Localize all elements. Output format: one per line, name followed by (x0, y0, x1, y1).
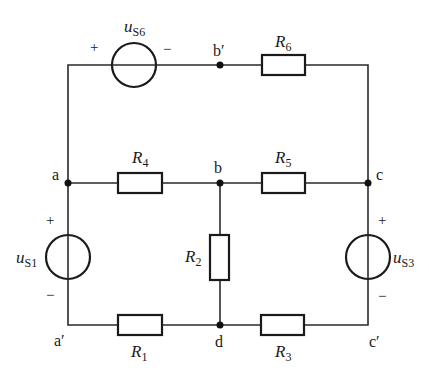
node-label-b-prime: b′ (213, 42, 225, 59)
node-a-dot (65, 180, 72, 187)
label-r6: R6 (274, 32, 291, 54)
label-r3: R3 (274, 342, 291, 364)
us6-plus-sign: + (90, 39, 98, 55)
wire-us1-to-r1 (68, 279, 118, 325)
resistor-r6 (262, 55, 305, 75)
node-label-b: b (214, 159, 222, 176)
resistor-r4 (118, 173, 162, 193)
label-us6: uS6 (124, 17, 145, 39)
node-d-dot (217, 322, 224, 329)
label-r2: R2 (184, 247, 201, 269)
us1-minus-sign: − (46, 287, 54, 303)
source-us6 (112, 43, 156, 87)
label-r4: R4 (131, 148, 148, 170)
us1-plus-sign: + (46, 212, 54, 228)
node-c-dot (365, 180, 372, 187)
node-b-dot (217, 180, 224, 187)
resistor-r3 (261, 315, 304, 335)
us3-minus-sign: − (378, 288, 386, 304)
label-us3: uS3 (393, 248, 414, 270)
label-r5: R5 (274, 148, 291, 170)
source-us3 (346, 235, 390, 279)
wire-r6-to-c (305, 65, 368, 183)
wires (68, 65, 368, 325)
circuit-diagram: b′ a b c a′ d c′ uS6 + − uS1 + − uS3 + −… (0, 0, 429, 377)
source-us1 (46, 235, 90, 279)
resistor-r1 (118, 315, 162, 335)
resistor-r2 (210, 235, 229, 280)
node-label-a-prime: a′ (54, 332, 65, 349)
wire-a-to-us6 (68, 65, 112, 183)
label-us1: uS1 (16, 248, 37, 270)
node-label-d: d (215, 333, 223, 350)
wire-r3-to-us3 (304, 279, 368, 325)
node-label-c: c (376, 166, 383, 183)
node-label-c-prime: c′ (369, 333, 380, 350)
node-b-prime-dot (217, 62, 224, 69)
us3-plus-sign: + (378, 212, 386, 228)
label-r1: R1 (130, 342, 147, 364)
node-label-a: a (52, 166, 59, 183)
us6-minus-sign: − (163, 41, 171, 57)
resistor-r5 (262, 173, 305, 193)
